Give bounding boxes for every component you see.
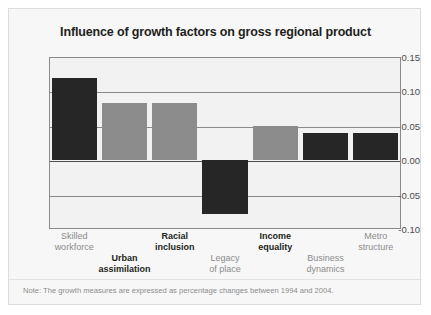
x-axis-tick-label: Income equality (242, 231, 308, 253)
x-axis-tick-label: Business dynamics (292, 253, 358, 275)
x-axis-tick-label: Legacy of place (192, 253, 258, 275)
bar (52, 78, 97, 161)
x-axis-tick-label: Skilled workforce (41, 231, 107, 253)
y-axis-tick-label: -0.10 (386, 224, 420, 235)
x-axis-tick-label: Racial inclusion (142, 231, 208, 253)
y-axis-tick-label: 0.10 (386, 86, 420, 97)
footnote-divider (9, 279, 422, 280)
y-axis-tick-label: 0.00 (386, 155, 420, 166)
chart-title: Influence of growth factors on gross reg… (9, 25, 422, 39)
chart-card: Influence of growth factors on gross reg… (8, 8, 421, 305)
bar (202, 160, 247, 214)
bar (303, 133, 348, 161)
chart-note: Note: The growth measures are expressed … (23, 286, 413, 296)
y-axis (9, 57, 47, 229)
plot-area (49, 57, 401, 229)
bar (102, 103, 147, 160)
y-axis-tick-label: -0.05 (386, 189, 420, 200)
bar (152, 103, 197, 160)
bar (253, 126, 298, 160)
x-axis-labels: Skilled workforceUrban assimilationRacia… (49, 231, 401, 281)
bar-series (49, 57, 401, 229)
y-axis-tick-label: 0.15 (386, 52, 420, 63)
x-axis-tick-label: Urban assimilation (91, 253, 157, 275)
y-axis-tick-label: 0.05 (386, 120, 420, 131)
